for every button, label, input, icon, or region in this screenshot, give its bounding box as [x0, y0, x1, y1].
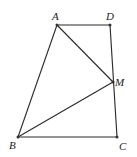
quadrilateral-diagram: A D M B C [0, 0, 137, 157]
label-b: B [9, 139, 16, 151]
segment-am [57, 25, 113, 82]
point-b [17, 136, 20, 139]
label-m: M [114, 76, 125, 88]
label-d: D [105, 10, 114, 22]
point-c [116, 136, 119, 139]
point-a [56, 24, 59, 27]
point-d [109, 24, 112, 27]
label-a: A [51, 10, 59, 22]
segment-bm [18, 82, 113, 137]
segment-ba [18, 25, 57, 137]
label-c: C [119, 140, 127, 152]
